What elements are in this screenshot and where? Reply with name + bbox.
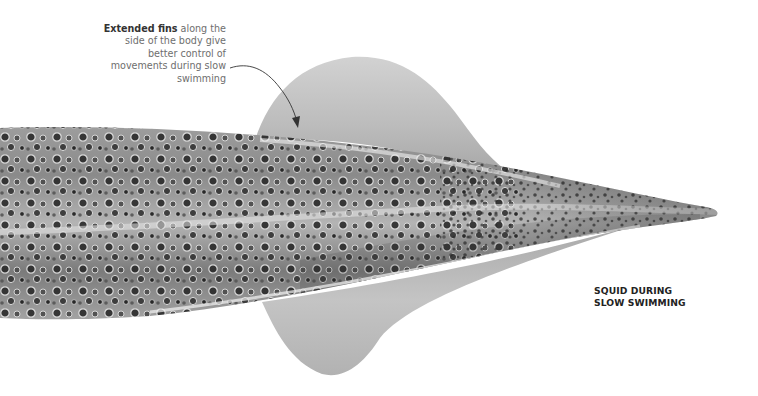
annotation-bold: Extended fins (104, 23, 178, 34)
caption-line-2: SLOW SWIMMING (594, 297, 686, 309)
figure-caption: SQUID DURING SLOW SWIMMING (594, 285, 686, 308)
fin-annotation: Extended fins along the side of the body… (100, 23, 226, 85)
caption-line-1: SQUID DURING (594, 285, 686, 297)
